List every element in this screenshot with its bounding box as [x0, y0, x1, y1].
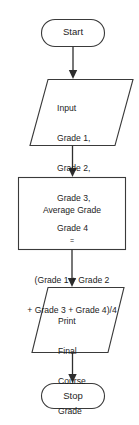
arrow-head-start-to-input	[69, 70, 77, 79]
input-line-1: Input	[57, 104, 90, 114]
output-line-1: Print	[58, 317, 86, 327]
input-line-3: Grade 2,	[57, 164, 90, 174]
output-node-text: Print Final Course Grade	[58, 297, 86, 425]
start-node-label: Start	[41, 26, 105, 37]
process-heading: Average Grade	[18, 206, 126, 216]
process-formula-line-1: (Grade 1 + Grade 2	[18, 276, 126, 286]
stop-node-label: Stop	[41, 390, 105, 401]
flowchart-diagram: Start Input Grade 1, Grade 2, Grade 3, G…	[0, 0, 139, 425]
output-line-4: Grade	[58, 407, 86, 417]
output-line-3: Course	[58, 377, 86, 387]
input-line-2: Grade 1,	[57, 134, 90, 144]
process-equals-sign: =	[18, 236, 126, 247]
output-line-2: Final	[58, 347, 86, 357]
